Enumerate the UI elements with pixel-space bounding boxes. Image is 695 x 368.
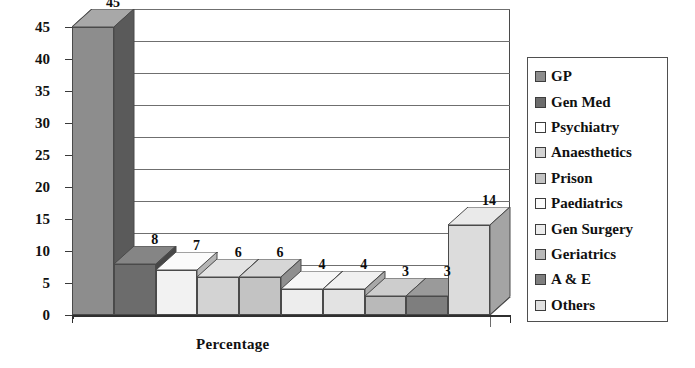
bar-value-label-anaesthetics: 6 (224, 246, 252, 260)
y-tick-label-0: 0 (16, 308, 50, 323)
y-tick-label-45: 45 (16, 20, 50, 35)
legend-item-a-e[interactable]: A & E (535, 267, 667, 292)
legend-item-label: Paediatrics (551, 196, 623, 211)
legend-swatch-icon (535, 122, 546, 133)
gridline-y-45 (92, 9, 510, 10)
bar-value-label-others: 14 (475, 194, 503, 208)
bar-value-label-gen-surgery: 4 (350, 258, 378, 272)
bar-side-face (490, 207, 511, 316)
y-tick-label-20: 20 (16, 180, 50, 195)
y-tick-mark-25 (65, 155, 72, 156)
legend-item-others[interactable]: Others (535, 293, 667, 318)
bar-chart: 051015202530354045 458766443314 Percenta… (0, 0, 512, 368)
legend-item-label: Geriatrics (551, 247, 616, 262)
gridline-y-25 (92, 137, 510, 138)
legend-swatch-icon (535, 300, 546, 311)
legend-item-anaesthetics[interactable]: Anaesthetics (535, 140, 667, 165)
legend-item-gen-surgery[interactable]: Gen Surgery (535, 216, 667, 241)
bar-value-label-prison: 6 (266, 246, 294, 260)
y-tick-label-40: 40 (16, 52, 50, 67)
bar-front-face (114, 264, 156, 315)
gridline-y-20 (92, 169, 510, 170)
y-tick-mark-40 (65, 59, 72, 60)
legend-item-label: Gen Med (551, 95, 611, 110)
legend-item-label: Others (551, 298, 595, 313)
gridline-y-40 (92, 41, 510, 42)
bar-front-face (323, 289, 365, 315)
legend-swatch-icon (535, 97, 546, 108)
legend-item-label: Anaesthetics (551, 145, 632, 160)
bar-front-face (365, 296, 407, 315)
y-tick-mark-10 (65, 251, 72, 252)
bar-value-label-geriatrics: 3 (392, 265, 420, 279)
legend-swatch-icon (535, 249, 546, 260)
legend-swatch-icon (535, 147, 546, 158)
chart-figure: 051015202530354045 458766443314 Percenta… (0, 0, 695, 368)
bar-value-label-a-e: 3 (433, 265, 461, 279)
legend-item-gen-med[interactable]: Gen Med (535, 89, 667, 114)
bar-value-label-paediatrics: 4 (308, 258, 336, 272)
x-axis-title: Percentage (196, 336, 270, 353)
y-tick-label-5: 5 (16, 276, 50, 291)
y-tick-mark-35 (65, 91, 72, 92)
bar-front-face (197, 277, 239, 315)
legend-item-geriatrics[interactable]: Geriatrics (535, 242, 667, 267)
y-tick-mark-30 (65, 123, 72, 124)
gridline-y-30 (92, 105, 510, 106)
y-tick-mark-0 (65, 315, 72, 316)
y-tick-label-15: 15 (16, 212, 50, 227)
y-tick-label-25: 25 (16, 148, 50, 163)
y-tick-label-35: 35 (16, 84, 50, 99)
legend-item-label: Prison (551, 171, 593, 186)
gridline-y-35 (92, 73, 510, 74)
bar-front-face (281, 289, 323, 315)
y-tick-label-10: 10 (16, 244, 50, 259)
bar-value-label-gen-med: 8 (141, 233, 169, 247)
bar-front-face (239, 277, 281, 315)
legend-item-prison[interactable]: Prison (535, 166, 667, 191)
gridline-y-15 (92, 201, 510, 202)
legend-item-paediatrics[interactable]: Paediatrics (535, 191, 667, 216)
legend-item-label: Gen Surgery (551, 222, 633, 237)
legend-swatch-icon (535, 198, 546, 209)
legend-item-label: A & E (551, 272, 591, 287)
x-axis-start-tick (72, 315, 73, 323)
legend-swatch-icon (535, 71, 546, 82)
bar-others (448, 207, 510, 315)
y-tick-label-30: 30 (16, 116, 50, 131)
legend-swatch-icon (535, 173, 546, 184)
bar-front-face (72, 27, 114, 315)
legend-item-label: GP (551, 69, 572, 84)
x-axis-end-tick (510, 315, 511, 323)
y-tick-mark-20 (65, 187, 72, 188)
bar-front-face (406, 296, 448, 315)
bar-value-label-gp: 45 (99, 0, 127, 10)
bar-front-face (156, 270, 198, 315)
chart-legend: GPGen MedPsychiatryAnaestheticsPrisonPae… (527, 57, 668, 322)
y-tick-mark-45 (65, 27, 72, 28)
legend-item-psychiatry[interactable]: Psychiatry (535, 115, 667, 140)
y-tick-mark-15 (65, 219, 72, 220)
legend-item-label: Psychiatry (551, 120, 619, 135)
y-tick-mark-5 (65, 283, 72, 284)
bar-value-label-psychiatry: 7 (183, 239, 211, 253)
legend-item-gp[interactable]: GP (535, 64, 667, 89)
legend-swatch-icon (535, 224, 546, 235)
legend-swatch-icon (535, 274, 546, 285)
